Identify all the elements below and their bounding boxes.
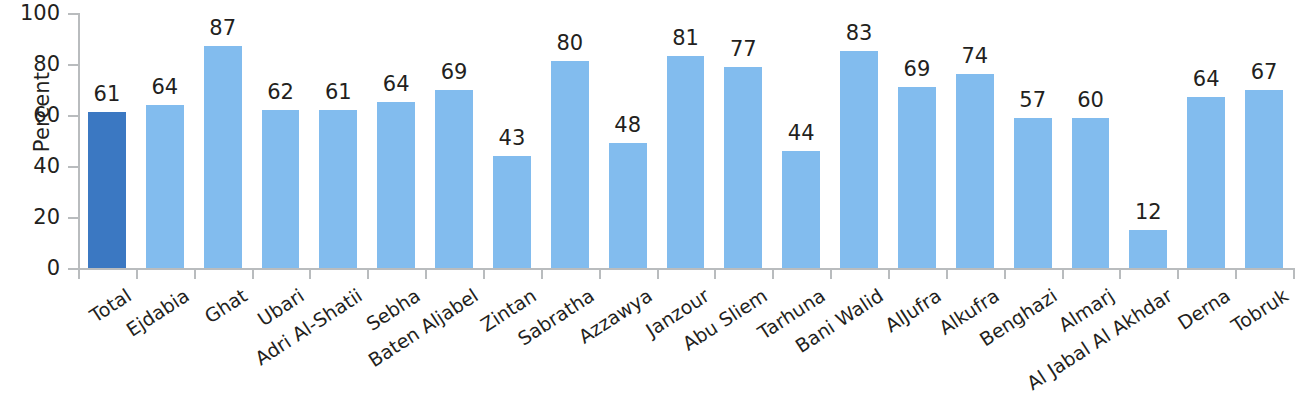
bar-value-label: 48 (609, 113, 647, 137)
y-axis-tick-label: 20 (0, 205, 60, 229)
bar[interactable] (551, 61, 589, 268)
bar-value-label: 69 (898, 57, 936, 81)
bar-value-label: 87 (204, 16, 242, 40)
x-axis-category: Adri Al-Shatii (354, 284, 366, 302)
y-axis-tick (68, 217, 78, 219)
x-axis-tick (714, 268, 716, 279)
bar[interactable] (840, 51, 878, 268)
x-axis-tick (541, 268, 543, 279)
x-axis-category: Almarj (1106, 284, 1118, 302)
x-axis-tick (136, 268, 138, 279)
bar-value-label: 69 (435, 60, 473, 84)
x-axis-category: Sabratha (586, 284, 598, 302)
x-axis-tick (309, 268, 311, 279)
bar[interactable] (204, 46, 242, 268)
bar-value-label: 61 (319, 80, 357, 104)
x-axis-tick (599, 268, 601, 279)
x-axis-tick (194, 268, 196, 279)
bar-value-label: 64 (146, 75, 184, 99)
x-axis-category: AlJufra (933, 284, 945, 302)
x-axis-category: Tarhuna (817, 284, 829, 302)
bar[interactable] (609, 143, 647, 268)
x-axis-category: Baten Aljabel (470, 284, 482, 302)
x-axis-tick (1062, 268, 1064, 279)
x-axis-tick (888, 268, 890, 279)
x-axis-category: Total (123, 284, 135, 302)
bar[interactable] (1129, 230, 1167, 268)
bar[interactable] (667, 56, 705, 268)
x-axis-category-label: Ghat (200, 284, 250, 327)
x-axis-tick (252, 268, 254, 279)
x-axis-tick (1177, 268, 1179, 279)
x-axis-category: Bani Walid (875, 284, 887, 302)
bar-value-label: 81 (667, 26, 705, 50)
x-axis-category: Azzawya (644, 284, 656, 302)
x-axis-category-label: Ejdabia (122, 284, 193, 341)
bar-value-label: 60 (1072, 88, 1110, 112)
y-axis-tick (68, 268, 78, 270)
x-axis-category-label: Tobruk (1227, 284, 1292, 337)
x-axis-tick (1235, 268, 1237, 279)
x-axis-category: Ghat (239, 284, 251, 302)
x-axis-category: Abu Sliem (759, 284, 771, 302)
bar[interactable] (319, 110, 357, 268)
bar[interactable] (782, 151, 820, 268)
bar[interactable] (898, 87, 936, 268)
bar[interactable] (1072, 118, 1110, 268)
y-axis-tick (68, 166, 78, 168)
y-axis-tick-label: 60 (0, 103, 60, 127)
bar-value-label: 57 (1014, 88, 1052, 112)
x-axis-category: Benghazi (1049, 284, 1061, 302)
bar-chart: Percent 02040608010061Total64Ejdabia87Gh… (0, 0, 1302, 419)
x-axis-tick (483, 268, 485, 279)
bar[interactable] (724, 67, 762, 268)
y-axis-tick-label: 80 (0, 52, 60, 76)
bar-value-label: 64 (1187, 67, 1225, 91)
x-axis-category: Tobruk (1280, 284, 1292, 302)
x-axis-category: Derna (1222, 284, 1234, 302)
bar[interactable] (956, 74, 994, 268)
x-axis-tick (830, 268, 832, 279)
bar-value-label: 67 (1245, 60, 1283, 84)
x-axis-line (78, 268, 1293, 270)
bar-value-label: 44 (782, 121, 820, 145)
bar-value-label: 77 (724, 37, 762, 61)
y-axis-tick (68, 13, 78, 15)
x-axis-category: Ubari (296, 284, 308, 302)
bar-value-label: 80 (551, 31, 589, 55)
bar-value-label: 83 (840, 21, 878, 45)
y-axis-tick-label: 40 (0, 154, 60, 178)
x-axis-category: Zintan (528, 284, 540, 302)
bar-value-label: 12 (1129, 200, 1167, 224)
y-axis-tick-label: 100 (0, 1, 60, 25)
y-axis-tick-label: 0 (0, 256, 60, 280)
x-axis-category-label: AlJufra (881, 284, 945, 336)
x-axis-tick (1293, 268, 1295, 279)
y-axis-tick (68, 64, 78, 66)
x-axis-category: Alkufra (991, 284, 1003, 302)
y-axis-tick (68, 115, 78, 117)
bar[interactable] (377, 102, 415, 268)
x-axis-tick (1119, 268, 1121, 279)
bar[interactable] (1245, 90, 1283, 269)
x-axis-tick (367, 268, 369, 279)
bar[interactable] (1187, 97, 1225, 268)
plot-area: 02040608010061Total64Ejdabia87Ghat62Ubar… (78, 13, 1293, 268)
bar-value-label: 64 (377, 72, 415, 96)
y-axis-line (78, 13, 80, 269)
x-axis-category: Ejdabia (181, 284, 193, 302)
x-axis-tick (1004, 268, 1006, 279)
x-axis-category: Sebha (412, 284, 424, 302)
x-axis-tick (657, 268, 659, 279)
bar-value-label: 43 (493, 126, 531, 150)
bar[interactable] (88, 112, 126, 268)
bar[interactable] (1014, 118, 1052, 268)
bar[interactable] (435, 90, 473, 269)
bar[interactable] (493, 156, 531, 268)
x-axis-tick (425, 268, 427, 279)
bar-value-label: 74 (956, 44, 994, 68)
bar[interactable] (146, 105, 184, 268)
bar-value-label: 62 (262, 80, 300, 104)
x-axis-category: Janzour (701, 284, 713, 302)
bar[interactable] (262, 110, 300, 268)
